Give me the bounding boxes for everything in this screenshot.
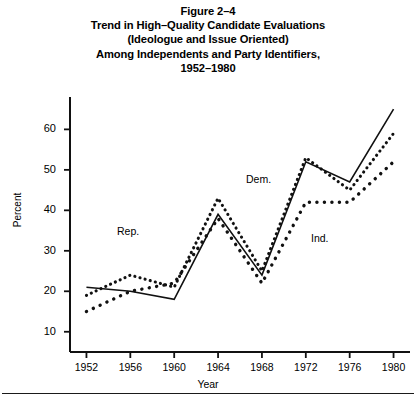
x-tick-label: 1968	[242, 362, 282, 373]
x-tick-label: 1972	[286, 362, 326, 373]
x-tick-label: 1960	[154, 362, 194, 373]
footer-rule	[2, 393, 414, 394]
x-tick-label: 1952	[66, 362, 106, 373]
y-tick-label: 60	[30, 123, 56, 134]
y-tick-label: 30	[30, 245, 56, 256]
x-tick-label: 1964	[198, 362, 238, 373]
footnote-text	[4, 396, 234, 403]
series-line-dem	[86, 109, 393, 299]
chart-svg	[0, 0, 416, 404]
y-tick-label: 20	[30, 285, 56, 296]
x-axis-title: Year	[0, 378, 416, 390]
series-annotation-dem: Dem.	[246, 174, 271, 185]
y-tick-label: 10	[30, 326, 56, 337]
y-tick-label: 50	[30, 164, 56, 175]
series-annotation-rep: Rep.	[117, 226, 139, 237]
figure-container: Figure 2–4 Trend in High–Quality Candida…	[0, 0, 416, 404]
y-axis-title: Percent	[13, 175, 23, 245]
x-tick-label: 1956	[110, 362, 150, 373]
x-tick-label: 1980	[374, 362, 414, 373]
x-tick-label: 1976	[330, 362, 370, 373]
plot-area: 102030405060 195219561960196419681972197…	[0, 0, 416, 404]
series-line-rep	[86, 133, 393, 295]
y-tick-label: 40	[30, 204, 56, 215]
series-annotation-ind: Ind.	[311, 233, 329, 244]
